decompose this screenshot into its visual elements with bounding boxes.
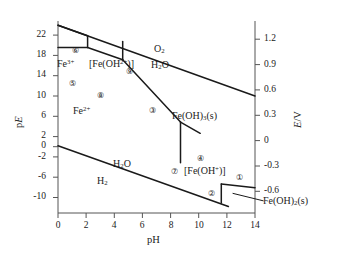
region-label-o2: O2 xyxy=(154,44,165,55)
callout-number-2: ② xyxy=(208,190,215,198)
x-ticks xyxy=(58,213,255,218)
callout-number-3: ③ xyxy=(149,107,156,115)
y-tick-label-22: 22 xyxy=(22,30,46,40)
y2-tick-label-0p6: 0.6 xyxy=(264,85,276,95)
region-label-feohplus: [Fe(OH+)] xyxy=(184,166,226,176)
x-tick-label-2: 2 xyxy=(76,221,96,231)
y-ticks-right xyxy=(255,39,260,191)
region-label-feoh2s: Fe(OH)2(s) xyxy=(263,196,308,207)
y2-tick-label-1p2: 1.2 xyxy=(264,34,276,44)
x-tick-label-4: 4 xyxy=(104,221,124,231)
x-tick-label-14: 14 xyxy=(245,221,265,231)
y-tick-label-0: 0 xyxy=(22,141,46,151)
callout-number-5: ⑤ xyxy=(69,80,76,88)
callout-number-8: ⑧ xyxy=(97,92,104,100)
y-tick-label-14: 14 xyxy=(22,70,46,80)
feoh2s-leader-line xyxy=(233,193,264,201)
callout-number-9: ⑨ xyxy=(126,68,133,76)
x-axis-title: pH xyxy=(147,235,160,246)
y2-tick-label-minus0p3: -0.3 xyxy=(264,161,279,171)
y-tick-label-minus2: -2 xyxy=(22,152,46,162)
callout-number-1: ① xyxy=(236,174,243,182)
y-axis-title: pE xyxy=(14,116,25,128)
y-tick-label-minus6: -6 xyxy=(22,172,46,182)
boundary-1-line xyxy=(221,184,255,188)
boundary-4-line xyxy=(181,122,201,133)
x-tick-label-10: 10 xyxy=(189,221,209,231)
region-label-feoh3s: Fe(OH)3(s) xyxy=(172,111,217,122)
boundary-6-line xyxy=(58,25,88,36)
region-label-h2o-bottom: H2O xyxy=(113,159,131,170)
y-tick-label-18: 18 xyxy=(22,50,46,60)
region-label-fe2plus: Fe2+ xyxy=(73,106,90,116)
y-tick-label-6: 6 xyxy=(22,111,46,121)
y-tick-label-minus10: -10 xyxy=(22,192,46,202)
region-label-fe3plus: Fe3+ xyxy=(57,59,74,69)
y2-tick-label-0p3: 0.3 xyxy=(264,110,276,120)
region-label-h2o-top: H2O xyxy=(151,60,169,71)
x-tick-label-0: 0 xyxy=(48,221,68,231)
x-tick-label-12: 12 xyxy=(217,221,237,231)
y-axis-right-title: E/V xyxy=(293,111,304,128)
y-tick-label-10: 10 xyxy=(22,91,46,101)
callout-number-7: ⑦ xyxy=(171,168,178,176)
y2-tick-label-0: 0 xyxy=(264,136,269,146)
x-tick-label-6: 6 xyxy=(132,221,152,231)
region-label-h2: H2 xyxy=(97,176,108,187)
callout-number-6: ⑥ xyxy=(72,47,79,55)
y2-tick-label-0p9: 0.9 xyxy=(264,60,276,70)
callout-number-4: ④ xyxy=(197,155,204,163)
x-tick-label-8: 8 xyxy=(161,221,181,231)
